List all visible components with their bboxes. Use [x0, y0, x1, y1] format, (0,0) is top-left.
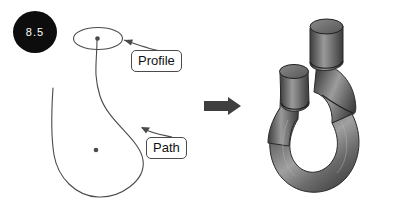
cylinder-end-short-cap	[280, 65, 309, 79]
swept-solid-hook	[0, 0, 399, 215]
bend-upper-right-arm	[314, 62, 356, 123]
figure-canvas: 8.5 Profile Path	[0, 0, 399, 215]
cylinder-end-tall-cap	[310, 19, 343, 34]
